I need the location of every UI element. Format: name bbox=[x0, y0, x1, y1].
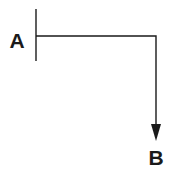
diagram-canvas: A B bbox=[0, 0, 172, 173]
arrowhead-icon bbox=[151, 124, 161, 141]
node-a-label: A bbox=[9, 29, 24, 52]
node-b-label: B bbox=[148, 146, 163, 169]
connector-path bbox=[36, 36, 156, 128]
